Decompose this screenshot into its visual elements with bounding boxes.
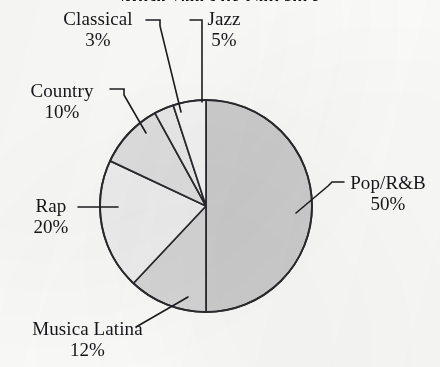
callout-rap-value: 20% xyxy=(10,216,92,237)
pie-chart-figure: Music Sales by Category Classical 3% Jaz… xyxy=(0,0,440,367)
callout-jazz-name: Jazz xyxy=(207,8,240,29)
callout-classical: Classical 3% xyxy=(40,8,156,51)
callout-rap: Rap 20% xyxy=(10,195,92,238)
pie-slice-pop-r-b xyxy=(206,100,312,312)
callout-country-name: Country xyxy=(31,80,94,101)
callout-musica-latina: Musica Latina 12% xyxy=(0,318,175,361)
callout-rap-name: Rap xyxy=(36,195,67,216)
callout-classical-value: 3% xyxy=(40,29,156,50)
callout-musica-latina-value: 12% xyxy=(0,339,175,360)
callout-pop-rnb: Pop/R&B 50% xyxy=(336,172,440,215)
callout-jazz: Jazz 5% xyxy=(182,8,266,51)
callout-pop-rnb-value: 50% xyxy=(336,193,440,214)
callout-jazz-value: 5% xyxy=(182,29,266,50)
pie-slice-group xyxy=(100,100,312,312)
callout-classical-name: Classical xyxy=(63,8,133,29)
callout-country-value: 10% xyxy=(8,101,116,122)
callout-country: Country 10% xyxy=(8,80,116,123)
callout-pop-rnb-name: Pop/R&B xyxy=(350,172,426,193)
callout-musica-latina-name: Musica Latina xyxy=(32,318,143,339)
